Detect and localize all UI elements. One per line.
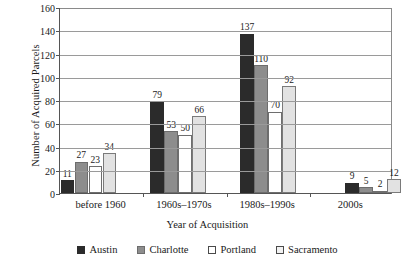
- bar-rect: [359, 187, 373, 193]
- x-axis-title: Year of Acquisition: [0, 219, 415, 230]
- bar-value-label: 66: [194, 106, 204, 116]
- legend-swatch-icon: [276, 246, 284, 254]
- y-axis-tick-mark: [56, 148, 60, 149]
- y-axis-tick-label: 20: [45, 165, 55, 176]
- y-axis-tick-mark: [56, 194, 60, 195]
- gridline: [60, 101, 391, 102]
- y-axis-tick-label: 160: [40, 3, 55, 14]
- legend-swatch-icon: [137, 246, 145, 254]
- y-axis-tick-mark: [56, 101, 60, 102]
- legend-swatch-icon: [208, 246, 216, 254]
- y-axis-title: Number of Acquired Parcels: [30, 11, 41, 201]
- bar-value-label: 2: [378, 180, 383, 190]
- bar-rect: [61, 180, 75, 193]
- legend-label: Sacramento: [288, 244, 338, 255]
- legend-item-charlotte[interactable]: Charlotte: [137, 244, 188, 255]
- y-axis-tick-label: 40: [45, 142, 55, 153]
- bar-rect: [75, 162, 89, 193]
- x-axis-tick-mark: [143, 193, 144, 197]
- y-axis-tick-label: 80: [45, 96, 55, 107]
- bar-value-label: 53: [166, 121, 176, 131]
- legend-label: Portland: [220, 244, 256, 255]
- bar-rect: [164, 131, 178, 193]
- gridline: [60, 171, 391, 172]
- plot-area: 1127233479535066137110709295212 02040608…: [59, 8, 392, 194]
- y-axis-tick-label: 0: [50, 189, 55, 200]
- y-axis-tick-label: 100: [40, 72, 55, 83]
- bar-value-label: 23: [91, 156, 101, 166]
- legend-label: Charlotte: [149, 244, 188, 255]
- bar-value-label: 110: [254, 55, 268, 65]
- gridline: [60, 78, 391, 79]
- x-axis-tick-mark: [310, 193, 311, 197]
- gridline: [60, 124, 391, 125]
- x-axis-category-label: 1960s–1970s: [142, 199, 225, 210]
- y-axis-tick-mark: [56, 55, 60, 56]
- bar-rect: [254, 65, 268, 193]
- x-axis-tick-mark: [227, 193, 228, 197]
- bar-value-label: 27: [77, 151, 87, 161]
- legend-item-austin[interactable]: Austin: [77, 244, 117, 255]
- chart-legend: AustinCharlottePortlandSacramento: [0, 244, 415, 255]
- x-axis-category-label: 2000s: [309, 199, 392, 210]
- y-axis-tick-mark: [56, 31, 60, 32]
- bar-rect: [240, 34, 254, 193]
- y-axis-tick-mark: [56, 8, 60, 9]
- bar-value-label: 79: [152, 91, 162, 101]
- legend-item-sacramento[interactable]: Sacramento: [276, 244, 338, 255]
- y-axis-tick-mark: [56, 124, 60, 125]
- bar-rect: [192, 116, 206, 193]
- bar-rect: [345, 183, 359, 193]
- bar-rect: [178, 135, 192, 193]
- x-axis-category-label: before 1960: [59, 199, 142, 210]
- bar-rect: [387, 179, 401, 193]
- legend-label: Austin: [89, 244, 117, 255]
- x-axis-category-label: 1980s–1990s: [226, 199, 309, 210]
- gridline: [60, 55, 391, 56]
- gridline: [60, 148, 391, 149]
- bar-value-label: 70: [270, 101, 280, 111]
- bar-value-label: 5: [364, 177, 369, 187]
- bar-rect: [103, 153, 117, 193]
- y-axis-tick-mark: [56, 171, 60, 172]
- y-axis-tick-label: 60: [45, 119, 55, 130]
- y-axis-tick-label: 120: [40, 49, 55, 60]
- legend-swatch-icon: [77, 246, 85, 254]
- gridline: [60, 8, 391, 9]
- bar-value-label: 9: [350, 172, 355, 182]
- bar-rect: [282, 86, 296, 193]
- bar-value-label: 50: [180, 124, 190, 134]
- legend-item-portland[interactable]: Portland: [208, 244, 256, 255]
- gridline: [60, 31, 391, 32]
- bar-rect: [373, 191, 387, 193]
- y-axis-tick-mark: [56, 78, 60, 79]
- bar-chart: Number of Acquired Parcels 1127233479535…: [0, 0, 415, 269]
- y-axis-tick-label: 140: [40, 26, 55, 37]
